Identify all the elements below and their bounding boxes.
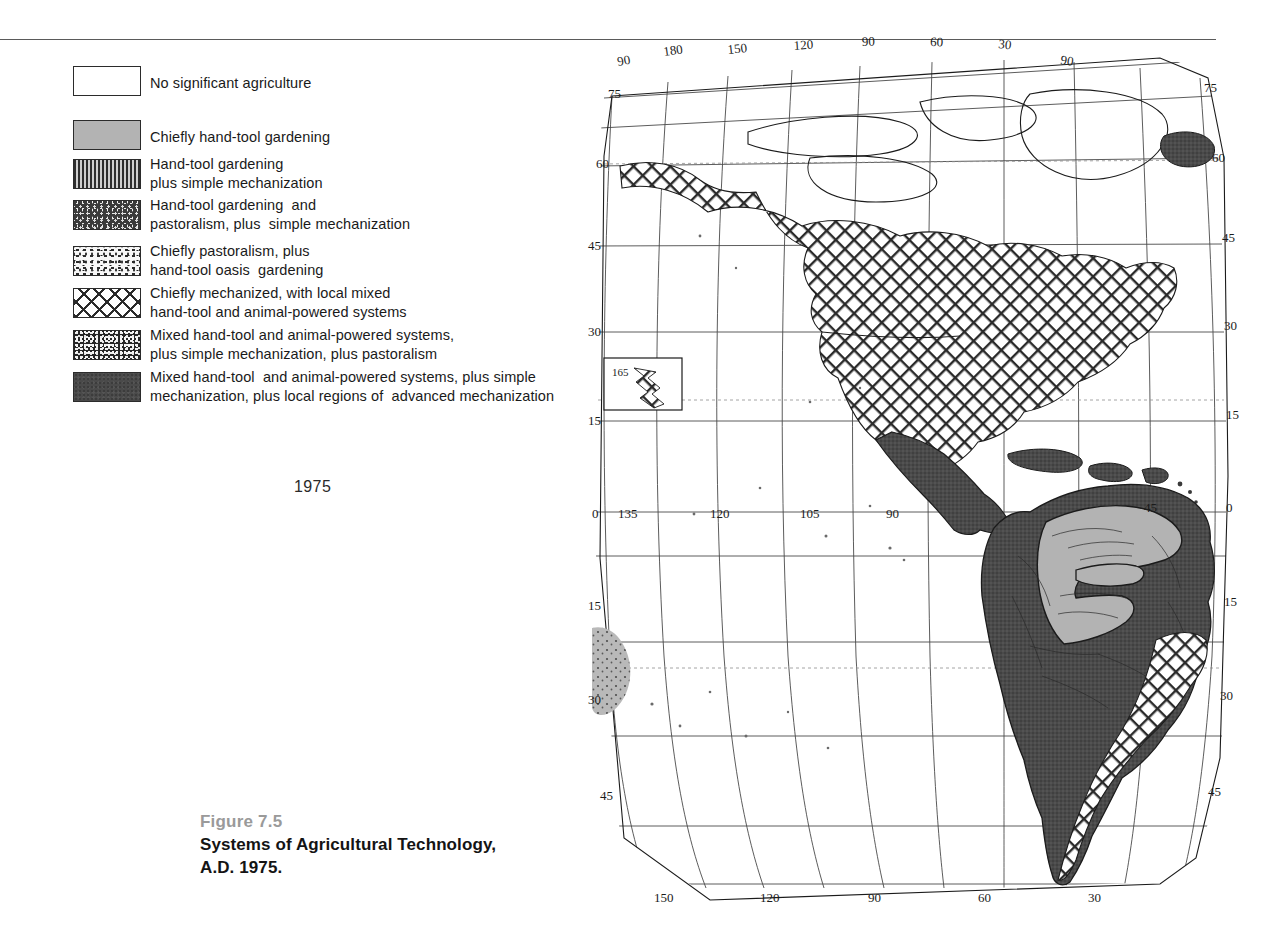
legend-label-3: Hand-tool gardening and pastoralism, plu…: [150, 196, 410, 233]
svg-text:180: 180: [662, 41, 683, 59]
inset-label-165: 165: [612, 366, 629, 378]
svg-text:60: 60: [1212, 150, 1225, 165]
legend-swatch-hand-tool-and-pastoralism: [73, 200, 141, 230]
svg-text:135: 135: [618, 506, 638, 521]
legend-swatch-chiefly-hand-tool-gardening: [73, 120, 141, 150]
svg-text:90: 90: [868, 890, 881, 905]
svg-text:30: 30: [1088, 890, 1101, 905]
svg-text:60: 60: [596, 156, 609, 171]
hawaii-inset-group: 165: [604, 358, 682, 410]
legend-swatch-no-significant-agriculture: [73, 66, 141, 96]
svg-text:30: 30: [998, 36, 1012, 52]
legend-label-2: Hand-tool gardening plus simple mechaniz…: [150, 155, 323, 192]
svg-text:90: 90: [862, 36, 876, 49]
svg-text:45: 45: [1222, 230, 1235, 245]
year-label: 1975: [294, 478, 331, 496]
legend-label-0: No significant agriculture: [150, 74, 311, 93]
landmass-south-america: [982, 485, 1215, 885]
svg-text:120: 120: [710, 506, 730, 521]
figure-page: No significant agriculture Chiefly hand-…: [0, 0, 1279, 940]
legend-swatch-chiefly-mechanized: [73, 288, 141, 318]
legend-swatch-mixed-plus-pastoralism: [73, 330, 141, 360]
svg-text:15: 15: [1224, 594, 1237, 609]
landmass-arctic: [748, 90, 1168, 202]
svg-text:90: 90: [886, 506, 899, 521]
svg-text:75: 75: [1204, 80, 1217, 95]
svg-text:30: 30: [1220, 688, 1233, 703]
svg-text:45: 45: [1144, 500, 1157, 515]
svg-text:120: 120: [760, 890, 780, 905]
svg-text:15: 15: [1226, 407, 1239, 422]
svg-text:105: 105: [800, 506, 820, 521]
svg-text:45: 45: [588, 238, 601, 253]
svg-text:30: 30: [588, 692, 601, 707]
svg-text:120: 120: [793, 37, 813, 53]
legend-swatch-mixed-plus-advanced-mechanization: [73, 372, 141, 402]
svg-text:75: 75: [608, 86, 621, 101]
svg-text:150: 150: [654, 890, 674, 905]
figure-caption: Figure 7.5 Systems of Agricultural Techn…: [200, 810, 620, 879]
svg-text:15: 15: [588, 598, 601, 613]
svg-text:30: 30: [588, 324, 601, 339]
svg-text:0: 0: [1226, 500, 1233, 515]
landmass-iceland: [1161, 132, 1215, 167]
svg-text:45: 45: [1208, 784, 1221, 799]
svg-text:60: 60: [978, 890, 991, 905]
figure-number: Figure 7.5: [200, 810, 620, 833]
legend-label-7: Mixed hand-tool and animal-powered syste…: [150, 368, 554, 405]
svg-text:60: 60: [930, 36, 944, 49]
svg-text:15: 15: [588, 413, 601, 428]
map-labels-bottom: 150 120 90 60 30: [654, 890, 1101, 905]
legend-label-1: Chiefly hand-tool gardening: [150, 128, 330, 147]
map-labels-top: 90 180 150 120 90 60 30 90: [616, 36, 1075, 69]
legend-swatch-hand-tool-plus-simple-mechanization: [73, 159, 141, 189]
legend-label-4: Chiefly pastoralism, plus hand-tool oasi…: [150, 242, 324, 279]
svg-text:90: 90: [1060, 52, 1075, 69]
svg-text:0: 0: [592, 506, 599, 521]
legend-swatch-chiefly-pastoralism: [73, 246, 141, 276]
legend-label-6: Mixed hand-tool and animal-powered syste…: [150, 326, 454, 363]
svg-text:150: 150: [727, 40, 748, 57]
svg-text:45: 45: [600, 788, 613, 803]
svg-text:30: 30: [1224, 318, 1237, 333]
legend-label-5: Chiefly mechanized, with local mixed han…: [150, 284, 407, 321]
map-figure: 165 90 180 150 120 90 60 30 90 75 60 45 …: [560, 36, 1260, 916]
svg-text:90: 90: [616, 52, 631, 69]
figure-title: Systems of Agricultural Technology, A.D.…: [200, 833, 620, 879]
